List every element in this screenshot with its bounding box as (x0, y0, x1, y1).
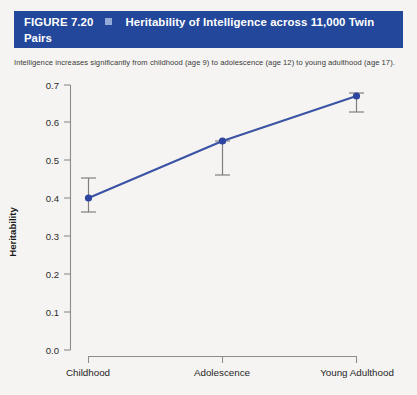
y-tick-label: 0.0 (46, 345, 59, 356)
y-tick-label: 0.2 (46, 269, 59, 280)
x-axis-category-labels: Childhood Adolescence Young Adulthood (66, 367, 394, 378)
figure-page: FIGURE 7.20Heritability of Intelligence … (0, 0, 417, 395)
y-axis-ticks (64, 85, 71, 350)
y-tick-label: 0.1 (46, 307, 59, 318)
chart-plot-area: 0.7 0.6 0.5 0.4 0.3 0.2 0.1 0.0 Childhoo… (0, 72, 417, 382)
heritability-line-chart: 0.7 0.6 0.5 0.4 0.3 0.2 0.1 0.0 Childhoo… (0, 72, 417, 382)
figure-number: FIGURE 7.20 (24, 16, 93, 28)
blue-square-icon (105, 18, 112, 25)
y-tick-label: 0.4 (46, 193, 60, 204)
y-tick-label: 0.6 (46, 117, 59, 128)
error-bar (215, 141, 230, 175)
data-point (85, 194, 92, 201)
figure-title-line2: Pairs (24, 31, 393, 47)
figure-header-first-line: FIGURE 7.20Heritability of Intelligence … (24, 15, 393, 31)
data-point (353, 92, 360, 99)
figure-title-line1: Heritability of Intelligence across 11,0… (125, 16, 374, 28)
y-tick-label: 0.3 (46, 231, 59, 242)
x-category-label: Young Adulthood (320, 367, 394, 378)
x-category-label: Adolescence (194, 367, 251, 378)
y-axis-tick-labels: 0.7 0.6 0.5 0.4 0.3 0.2 0.1 0.0 (46, 80, 60, 356)
data-point (219, 137, 226, 144)
figure-caption: Intelligence increases significantly fro… (14, 58, 406, 68)
figure-header-band: FIGURE 7.20Heritability of Intelligence … (14, 11, 403, 48)
error-bars (81, 93, 364, 212)
y-axis-title: Heritability (7, 207, 18, 257)
x-axis-ticks (89, 357, 357, 364)
y-tick-label: 0.5 (46, 155, 59, 166)
y-tick-label: 0.7 (46, 80, 59, 91)
x-category-label: Childhood (66, 367, 110, 378)
